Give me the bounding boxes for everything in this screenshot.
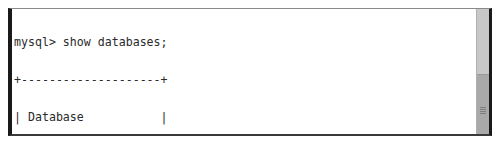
command-line: mysql> show databases; [14,36,473,49]
table-header-row: | Database | [14,111,473,124]
terminal-output[interactable]: mysql> show databases; +----------------… [14,11,473,134]
scrollbar-thumb[interactable] [477,74,489,134]
terminal-window: mysql> show databases; +----------------… [8,8,492,136]
vertical-scrollbar[interactable] [476,9,489,134]
table-border-top: +--------------------+ [14,74,473,87]
grip-icon [480,107,486,114]
